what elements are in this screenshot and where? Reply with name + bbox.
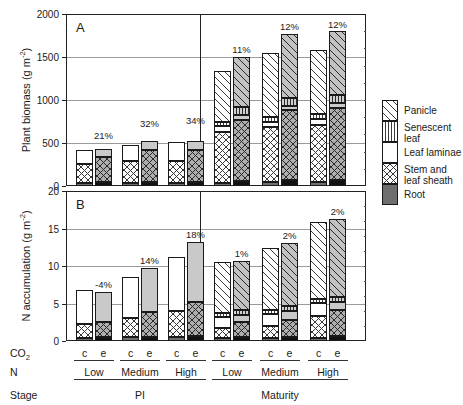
- legend: PanicleSenescentleafLeaf laminaeStem and…: [0, 0, 463, 405]
- legend-label-stem: Stem and: [404, 164, 447, 176]
- legend-swatch-laminae: [382, 142, 398, 163]
- legend-label-laminae: Leaf laminae: [404, 147, 461, 159]
- legend-swatch-senescent: [382, 121, 398, 142]
- legend-swatch-panicle: [382, 100, 398, 121]
- legend-label-stem-line2: leaf sheath: [404, 175, 453, 187]
- legend-swatch-root: [382, 184, 398, 205]
- figure-root: Plant biomass (g m-2)N accumulation (g m…: [0, 0, 463, 405]
- legend-label-root: Root: [404, 189, 425, 201]
- legend-label-senescent: Senescent: [404, 122, 451, 134]
- legend-label-panicle: Panicle: [404, 105, 437, 117]
- legend-label-senescent-line2: leaf: [404, 133, 420, 145]
- legend-swatch-stem: [382, 163, 398, 184]
